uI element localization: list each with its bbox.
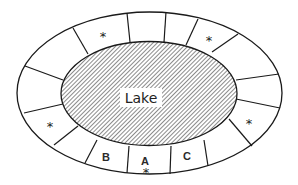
lake-label: Lake — [125, 90, 158, 106]
plot-label-c: C — [183, 150, 191, 162]
lake-plot-diagram: Lake * * * * * B A C — [0, 0, 298, 185]
marker-plot-a: * — [143, 165, 150, 180]
marker-right-plot: * — [246, 116, 253, 131]
marker-left-plot: * — [47, 119, 54, 134]
marker-top-left-plot: * — [100, 29, 107, 44]
marker-top-right-plot: * — [206, 33, 213, 48]
diagram-canvas: Lake * * * * * B A C — [0, 0, 298, 185]
plot-label-b: B — [102, 151, 110, 163]
plot-label-a: A — [141, 155, 149, 167]
